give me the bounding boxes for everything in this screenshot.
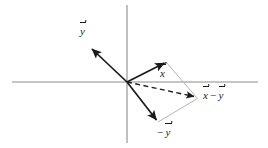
vector-figure: y x −y x−y: [0, 0, 268, 148]
guide-line-x-to-resultant: [166, 62, 198, 99]
x-minus-y-label: x−y: [203, 90, 224, 101]
y-vector-label: y: [80, 26, 85, 37]
x-vector-label: x: [160, 68, 165, 79]
guide-line-negy-to-resultant: [158, 99, 198, 123]
vector-x-arrow: [127, 63, 165, 82]
vector-y-arrow: [92, 49, 127, 82]
negative-y-vector-label: −y: [155, 127, 171, 138]
vector-diagram-canvas: [0, 0, 268, 148]
